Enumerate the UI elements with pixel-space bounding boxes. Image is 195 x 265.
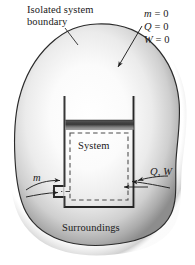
mass-zero-label: m = 0 [144, 8, 169, 20]
heat-zero-variable: Q [144, 21, 152, 32]
system-label: System [78, 140, 110, 152]
heat-zero-label: Q = 0 [144, 21, 169, 33]
work-zero-value: = 0 [153, 34, 170, 45]
mass-zero-variable: m [144, 8, 152, 19]
work-zero-label: W = 0 [144, 34, 170, 46]
cylinder-right-wall-shade [134, 96, 135, 207]
work-zero-variable: W [144, 34, 153, 45]
mass-zero-value: = 0 [152, 8, 169, 19]
piston-plate [65, 120, 133, 130]
heat-zero-value: = 0 [152, 21, 169, 32]
heat-work-label: Q, W [150, 166, 172, 178]
isolated-boundary-shape [14, 24, 179, 245]
isolated-boundary-label: Isolated system boundary [27, 4, 115, 28]
isolated-system-figure: Isolated system boundary m = 0 Q = 0 W =… [0, 0, 195, 265]
mass-flow-label: m [33, 172, 41, 184]
surroundings-label: Surroundings [62, 222, 120, 234]
cylinder-left-wall-shade [63, 96, 64, 207]
